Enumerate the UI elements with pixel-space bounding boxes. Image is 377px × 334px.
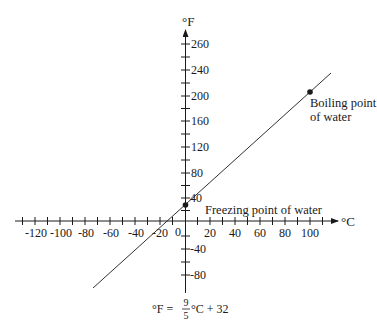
freezing-point-label: Freezing point of water <box>205 203 323 217</box>
x-tick-label: 60 <box>254 226 266 240</box>
freezing-point-marker <box>183 202 189 208</box>
x-tick-labels: -120 -100 -80 -60 -40 -20 0 20 40 60 80 … <box>25 225 319 240</box>
x-tick-label: 20 <box>204 226 216 240</box>
boiling-point-label-line2: of water <box>310 110 352 124</box>
y-tick-label: 260 <box>191 37 209 51</box>
y-tick-label: 160 <box>191 114 209 128</box>
y-tick-label: 200 <box>191 89 209 103</box>
x-tick-label: -100 <box>50 226 72 240</box>
x-tick-label: -40 <box>128 226 144 240</box>
x-tick-label: -60 <box>103 226 119 240</box>
y-tick-label: 240 <box>191 63 209 77</box>
formula-lhs: °F = <box>152 302 173 316</box>
formula-rhs: °C + 32 <box>191 302 229 316</box>
conversion-line <box>93 73 331 288</box>
y-tick-label: 80 <box>191 166 203 180</box>
boiling-point-marker <box>307 89 313 95</box>
boiling-point-label-line1: Boiling point <box>310 96 377 110</box>
y-tick-label: 40 <box>190 191 202 205</box>
x-tick-label: 100 <box>301 226 319 240</box>
x-axis-title: °C <box>341 214 355 229</box>
temperature-conversion-chart: -120 -100 -80 -60 -40 -20 0 20 40 60 80 … <box>0 0 377 334</box>
formula-numerator: 9 <box>184 297 189 308</box>
y-tick-labels: 260 240 200 160 120 80 40 -40 -80 <box>190 37 209 282</box>
conversion-formula: °F = 9 5 °C + 32 <box>152 297 229 321</box>
formula-denominator: 5 <box>184 310 189 321</box>
y-tick-label: -80 <box>190 268 206 282</box>
origin-label: 0 <box>175 225 181 239</box>
x-tick-label: 40 <box>229 226 241 240</box>
x-tick-label: 80 <box>279 226 291 240</box>
y-tick-label: 120 <box>191 140 209 154</box>
x-tick-label: -120 <box>25 226 47 240</box>
x-tick-label: -80 <box>78 226 94 240</box>
y-tick-label: -40 <box>190 242 206 256</box>
y-axis-title: °F <box>182 14 194 29</box>
